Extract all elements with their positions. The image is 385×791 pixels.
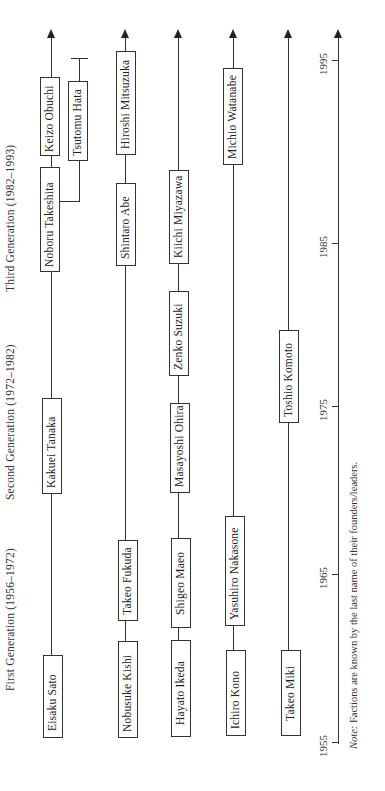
leader-box-miki: Takeo Miki bbox=[281, 650, 301, 736]
leader-name: Shigeo Maeo bbox=[174, 552, 186, 615]
axis-label-1985: 1985 bbox=[317, 236, 329, 258]
leader-box-nakasone: Yasuhiro Nakasone bbox=[225, 516, 245, 626]
leader-box-takeshita: Noboru Takeshita bbox=[40, 167, 60, 272]
leader-name: Hayato Ikeda bbox=[174, 661, 186, 725]
leader-name: Yasuhiro Nakasone bbox=[228, 527, 240, 620]
leader-name: Zenko Suzuki bbox=[172, 303, 184, 370]
leader-box-ohira: Masayoshi Ohira bbox=[170, 403, 190, 493]
leader-name: Michio Watanabe bbox=[226, 75, 238, 159]
leader-box-tanaka: Kakuei Tanaka bbox=[42, 398, 62, 494]
leader-box-watanabe: Michio Watanabe bbox=[223, 68, 243, 165]
leader-box-sato: Eisaku Sato bbox=[43, 655, 63, 738]
arrow-up-icon bbox=[284, 29, 292, 38]
axis-label-1995: 1995 bbox=[317, 53, 329, 75]
leader-box-maeo: Shigeo Maeo bbox=[171, 538, 191, 628]
leader-name: Keizo Obuchi bbox=[43, 85, 55, 152]
time-axis bbox=[338, 38, 339, 744]
arrow-up-icon bbox=[121, 29, 129, 38]
leader-name: Ichiro Kono bbox=[229, 671, 241, 729]
arrow-up-icon bbox=[174, 29, 182, 38]
leader-box-kono: Ichiro Kono bbox=[226, 650, 246, 736]
axis-tick-1995 bbox=[332, 60, 339, 61]
footnote: Note: Factions are known by the last nam… bbox=[348, 462, 359, 749]
leader-name: Nobusuke Kishi bbox=[121, 655, 133, 732]
arrow-up-icon bbox=[47, 29, 55, 38]
header-second-generation: Second Generation (1972–1982) bbox=[4, 344, 16, 500]
axis-tick-1955 bbox=[332, 742, 339, 743]
leader-name: Takeo Miki bbox=[284, 666, 296, 721]
leader-name: Hiroshi Mitsuzuka bbox=[119, 60, 131, 149]
leader-box-suzuki: Zenko Suzuki bbox=[169, 291, 189, 376]
leader-box-hata: Tsutomu Hata bbox=[68, 81, 88, 161]
axis-tick-1965 bbox=[332, 574, 339, 575]
leader-name: Kiichi Miyazawa bbox=[172, 175, 184, 258]
leader-box-obuchi: Keizo Obuchi bbox=[40, 77, 60, 156]
leader-name: Kakuei Tanaka bbox=[45, 416, 57, 488]
leader-box-mitsuzuka: Hiroshi Mitsuzuka bbox=[116, 51, 136, 155]
leader-box-ikeda: Hayato Ikeda bbox=[171, 640, 191, 737]
axis-label-1955: 1955 bbox=[317, 735, 329, 757]
leader-name: Toshio Komoto bbox=[282, 343, 294, 417]
leader-name: Noboru Takeshita bbox=[43, 182, 55, 267]
leader-box-fukuda: Takeo Fukuda bbox=[118, 540, 138, 621]
leader-box-kishi: Nobusuke Kishi bbox=[118, 641, 138, 738]
note-text: Factions are known by the last name of t… bbox=[348, 462, 359, 726]
leader-name: Takeo Fukuda bbox=[121, 547, 133, 615]
axis-label-1975: 1975 bbox=[317, 399, 329, 421]
note-prefix: Note: bbox=[348, 726, 359, 749]
axis-label-1965: 1965 bbox=[317, 567, 329, 589]
leader-box-komoto: Toshio Komoto bbox=[279, 330, 299, 423]
branch-hata-end-cap bbox=[71, 58, 88, 59]
leader-box-miyazawa: Kiichi Miyazawa bbox=[169, 170, 189, 264]
arrow-up-icon bbox=[229, 29, 237, 38]
arrow-up-icon bbox=[334, 29, 342, 38]
leader-name: Shintaro Abe bbox=[119, 196, 131, 259]
header-third-generation: Third Generation (1982–1993) bbox=[4, 145, 16, 292]
header-first-generation: First Generation (1956–1972) bbox=[4, 548, 16, 691]
axis-tick-1985 bbox=[332, 243, 339, 244]
axis-tick-1975 bbox=[332, 406, 339, 407]
leader-name: Tsutomu Hata bbox=[71, 89, 83, 156]
leader-box-abe: Shintaro Abe bbox=[116, 183, 136, 266]
leader-name: Eisaku Sato bbox=[46, 674, 58, 731]
leader-name: Masayoshi Ohira bbox=[173, 405, 185, 487]
